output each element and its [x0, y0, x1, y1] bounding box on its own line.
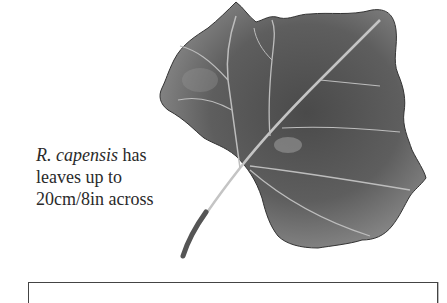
caption-line-3: 20cm/8in across — [36, 188, 153, 210]
species-name: R. capensis — [36, 145, 118, 165]
info-box — [28, 282, 438, 303]
caption-line-2: leaves up to — [36, 166, 153, 188]
leaf-illustration — [150, 0, 430, 262]
leaf-caption: R. capensis has leaves up to 20cm/8in ac… — [36, 144, 153, 210]
caption-line-1: R. capensis has — [36, 144, 153, 166]
